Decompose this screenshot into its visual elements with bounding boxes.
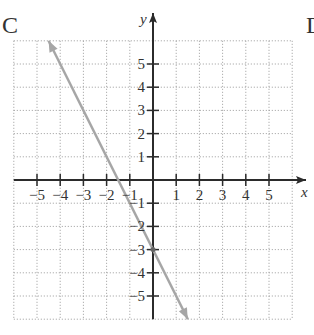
x-tick-label: −3 [75,187,91,203]
y-tick-label: 4 [138,79,146,95]
x-tick-label: −5 [29,187,45,203]
y-tick-label: 1 [138,149,146,165]
x-tick-label: 2 [196,187,204,203]
y-tick-label: −3 [129,242,145,258]
x-tick-label: 5 [265,187,273,203]
x-tick-label: 1 [172,187,180,203]
y-tick-label: −5 [129,288,145,304]
y-intercept-point [151,247,156,252]
next-panel-label-partial: D [306,12,314,38]
x-axis-label: x [300,184,308,200]
x-tick-label: 4 [242,187,250,203]
y-tick-label: 2 [138,126,146,142]
x-tick-label: −4 [52,187,68,203]
x-tick-label: 3 [219,187,227,203]
y-tick-label: 5 [138,56,146,72]
y-tick-label: −4 [129,265,145,281]
panel-label: C [2,12,18,38]
y-tick-label: −2 [129,218,145,234]
y-tick-label: 3 [138,102,146,118]
coordinate-plane: −5−4−3−2−112345−5−4−3−2−112345 C D y x [0,0,314,335]
y-axis-label: y [138,11,147,27]
y-tick-label: −1 [129,195,145,211]
x-tick-label: −2 [99,187,115,203]
